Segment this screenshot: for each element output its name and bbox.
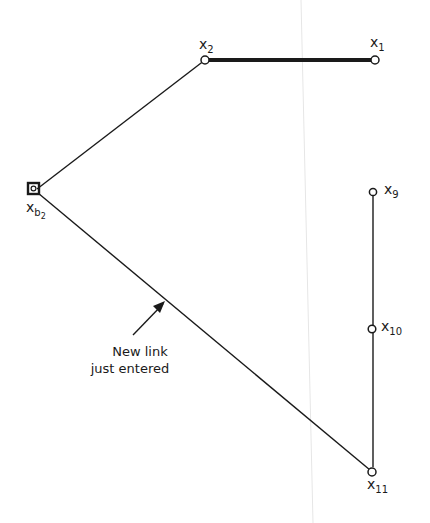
page-fold-line [301, 0, 313, 523]
node-x10 [368, 325, 376, 333]
node-x2 [201, 56, 209, 64]
label-x9: x9 [384, 181, 399, 200]
label-xb2: xb2 [26, 199, 46, 221]
network-diagram: xb2 x2 x1 x9 x10 x11 New link just enter… [0, 0, 430, 523]
annotation-line-1: New link [112, 344, 168, 359]
label-x11: x11 [367, 476, 388, 495]
node-x9 [369, 188, 376, 195]
node-x1 [371, 56, 379, 64]
annotation-line-2: just entered [90, 361, 170, 376]
link-xb2-x2 [37, 60, 205, 189]
annotation-arrow-icon [133, 301, 165, 335]
diagram-canvas: xb2 x2 x1 x9 x10 x11 New link just enter… [0, 0, 430, 523]
link-xb2-x11-new [38, 193, 370, 470]
node-x11 [368, 468, 376, 476]
label-x10: x10 [381, 318, 402, 337]
label-x1: x1 [370, 34, 385, 53]
label-x2: x2 [199, 36, 214, 55]
